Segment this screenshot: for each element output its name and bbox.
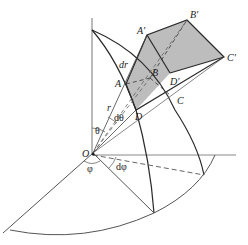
label-dtheta: dθ <box>114 112 124 123</box>
label-B-prime: B' <box>190 9 199 20</box>
equator-arc <box>10 155 215 235</box>
label-A: A <box>114 78 122 89</box>
spherical-volume-element-diagram: A' B' C' D' A B C D dr r dθ θ O φ dφ <box>0 0 248 245</box>
phi-line-left <box>3 153 93 233</box>
label-dr: dr <box>119 59 128 70</box>
label-D: D <box>134 111 143 122</box>
label-A-prime: A' <box>136 25 146 36</box>
label-dphi: dφ <box>116 161 127 172</box>
origin-point <box>92 153 95 156</box>
label-C: C <box>177 95 184 106</box>
dphi-dashed-line <box>93 155 204 175</box>
label-phi: φ <box>87 163 93 174</box>
label-D-prime: D' <box>169 76 180 87</box>
label-B: B <box>152 67 158 78</box>
label-C-prime: C' <box>227 52 237 63</box>
label-r: r <box>107 102 111 113</box>
label-theta: θ <box>95 125 100 136</box>
label-origin: O <box>82 148 89 159</box>
